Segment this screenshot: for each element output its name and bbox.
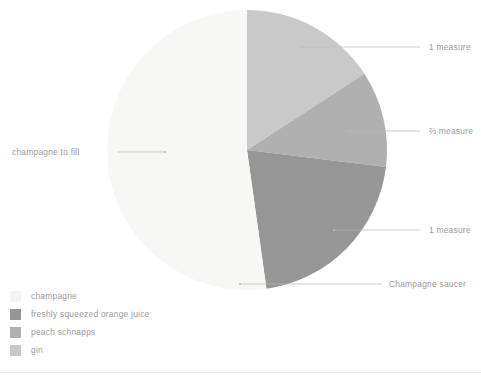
arrow-dot-peach-schnapps (333, 229, 335, 231)
footer-divider (0, 372, 481, 373)
legend-item-gin[interactable]: gin (10, 341, 150, 359)
annotation-orange-juice-measure: ⅔ measure (429, 127, 473, 135)
legend-item-champagne[interactable]: champagne (10, 287, 150, 305)
arrow-dot-champagne-fill (164, 151, 166, 153)
arrow-dot-orange-juice (348, 130, 350, 132)
legend-label-peach-schnapps: peach schnapps (31, 328, 96, 336)
annotation-glassware: Champagne saucer (389, 280, 466, 288)
annotation-champagne-fill: champagne to fill (12, 148, 80, 156)
pie-slice-champagne[interactable] (107, 10, 266, 290)
annotation-gin-measure: 1 measure (429, 43, 471, 51)
legend-swatch-peach-schnapps (10, 327, 21, 338)
pie-slices (107, 10, 387, 290)
annotation-peach-schnapps-measure: 1 measure (429, 226, 471, 234)
legend-item-orange-juice[interactable]: freshly squeezed orange juice (10, 305, 150, 323)
legend-label-gin: gin (31, 346, 43, 354)
chart-canvas: 1 measure ⅔ measure 1 measure Champagne … (0, 0, 481, 380)
legend-item-peach-schnapps[interactable]: peach schnapps (10, 323, 150, 341)
arrow-dot-glassware (239, 283, 241, 285)
pie-slice-peach-schnapps[interactable] (247, 150, 386, 289)
legend-swatch-gin (10, 345, 21, 356)
legend: champagne freshly squeezed orange juice … (10, 287, 150, 359)
legend-label-champagne: champagne (31, 292, 77, 300)
arrow-dot-gin (301, 46, 303, 48)
legend-swatch-champagne (10, 291, 21, 302)
legend-label-orange-juice: freshly squeezed orange juice (31, 310, 150, 318)
legend-swatch-orange-juice (10, 309, 21, 320)
